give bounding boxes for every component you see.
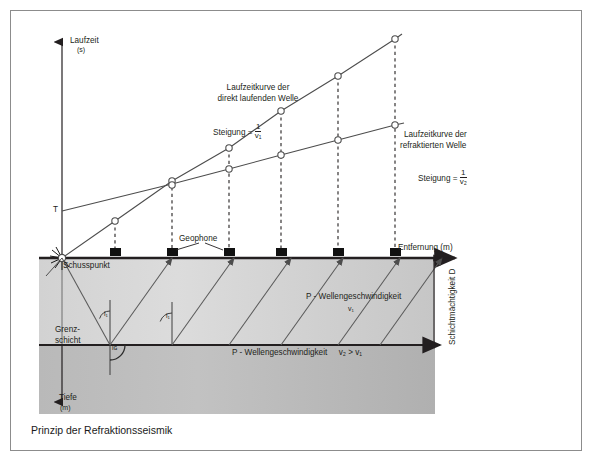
depth-axis-label-line1: Tiefe — [59, 393, 77, 403]
direct-curve-label-line1: Laufzeitkurve der — [193, 83, 323, 93]
figure-caption: Prinzip der Refraktionsseismik — [31, 424, 172, 436]
direct-curve-label-line2: direkt laufenden Welle — [193, 94, 323, 104]
layer-thickness-label: Schichtmächtigkeit D — [448, 269, 458, 345]
geophone-leader-lines — [176, 243, 223, 250]
layer2-velocity-label: P - Wellengeschwindigkeit v₂ > v₁ — [232, 348, 362, 358]
distance-axis-label: Entfernung (m) — [398, 243, 453, 253]
data-point — [335, 73, 341, 79]
direct-slope-label: Steigung = 1v₁ — [204, 113, 261, 150]
data-point — [335, 137, 341, 143]
geophone-marker — [167, 248, 178, 256]
data-point — [278, 152, 284, 158]
boundary-label-line1: Grenz- — [55, 325, 80, 335]
refracted-slope-label: Steigung = 1v₂ — [409, 159, 467, 196]
time-axis-label-line2: (s) — [77, 46, 85, 54]
angle-critical-label: iɢ — [112, 344, 117, 352]
geophone-label: Geophone — [179, 234, 217, 244]
refracted-curve-label-line1: Laufzeitkurve der — [404, 130, 467, 140]
shotpoint-label: Schusspunkt — [63, 261, 110, 271]
refracted-slope-fraction: 1v₂ — [460, 169, 467, 186]
boundary-label-line2: schicht — [55, 336, 80, 346]
layer1-velocity-label: P - Wellengeschwindigkeit — [306, 292, 401, 302]
time-axis-label-line1: Laufzeit — [70, 36, 99, 46]
layer1-velocity-value: v₁ — [348, 305, 354, 313]
angle-incidence-2-label: i₁ — [166, 312, 170, 320]
direct-slope-denominator: v₁ — [255, 131, 262, 140]
data-point — [112, 218, 118, 224]
data-point — [169, 182, 175, 188]
data-point — [392, 36, 398, 42]
refracted-curve-label-line2: refraktierten Welle — [400, 141, 466, 151]
depth-axis-label-line2: (m) — [60, 404, 71, 412]
geophone-marker — [224, 248, 235, 256]
data-point — [226, 166, 232, 172]
direct-slope-numerator: 1 — [255, 123, 262, 131]
geophone-group — [110, 248, 401, 256]
geophone-marker — [333, 248, 344, 256]
direct-slope-fraction: 1v₁ — [255, 123, 262, 140]
geophone-marker — [276, 248, 287, 256]
refracted-slope-prefix: Steigung = — [418, 173, 460, 182]
refraction-seismics-figure: Laufzeit (s) T Laufzeitkurve der direkt … — [0, 0, 593, 464]
direct-slope-prefix: Steigung = — [213, 127, 255, 136]
refracted-slope-denominator: v₂ — [460, 177, 467, 186]
data-point — [278, 108, 284, 114]
diagram-canvas — [0, 0, 593, 464]
data-point — [392, 122, 398, 128]
geophone-marker — [110, 248, 121, 256]
refracted-slope-numerator: 1 — [460, 169, 467, 177]
angle-incidence-1-label: i₁ — [104, 310, 108, 318]
intercept-time-label: T — [53, 205, 58, 215]
